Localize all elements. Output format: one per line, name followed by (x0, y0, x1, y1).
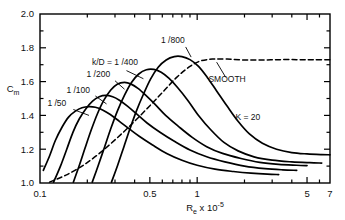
x-tick-label: 1 (195, 188, 200, 199)
y-tick-label: 2.0 (21, 8, 34, 19)
annotation-1-50: 1 /50 (47, 98, 66, 108)
annotation-1-100: 1 /100 (66, 85, 90, 95)
annotation-smooth: SMOOTH (208, 74, 245, 84)
y-tick-label: 1.0 (21, 177, 34, 188)
chart-figure: 1.01.21.41.61.82.0 0.10.5157 k/D = 1 /40… (0, 0, 345, 220)
x-tick-label: 7 (327, 188, 332, 199)
annotation-1-800: 1 /800 (161, 35, 185, 45)
annotation-1-200: 1 /200 (87, 69, 111, 79)
y-tick-label: 1.2 (21, 144, 34, 155)
chart-plot-area: 1.01.21.41.61.82.0 0.10.5157 k/D = 1 /40… (0, 0, 345, 220)
x-tick-label: 5 (304, 188, 309, 199)
y-tick-label: 1.6 (21, 76, 34, 87)
annotation-k-d-1-400: k/D = 1 /400 (92, 57, 138, 67)
x-tick-label: 0.1 (33, 188, 46, 199)
x-tick-label: 0.5 (143, 188, 156, 199)
y-tick-label: 1.4 (21, 110, 34, 121)
y-tick-label: 1.8 (21, 42, 34, 53)
annotation-k-20: K = 20 (235, 112, 260, 122)
chart-background (0, 0, 345, 220)
